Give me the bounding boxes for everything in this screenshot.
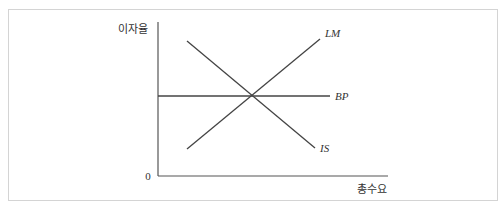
origin-label: 0: [145, 170, 151, 182]
y-axis-label: 이자율: [118, 23, 148, 36]
lm-label: LM: [324, 27, 341, 39]
x-axis-label: 총수요: [357, 183, 387, 196]
is-lm-bp-diagram: 이자율 총수요 0 LM IS BP: [0, 0, 504, 207]
lm-curve: [187, 39, 320, 149]
is-curve: [187, 41, 315, 148]
is-label: IS: [319, 142, 330, 154]
bp-label: BP: [335, 90, 349, 102]
